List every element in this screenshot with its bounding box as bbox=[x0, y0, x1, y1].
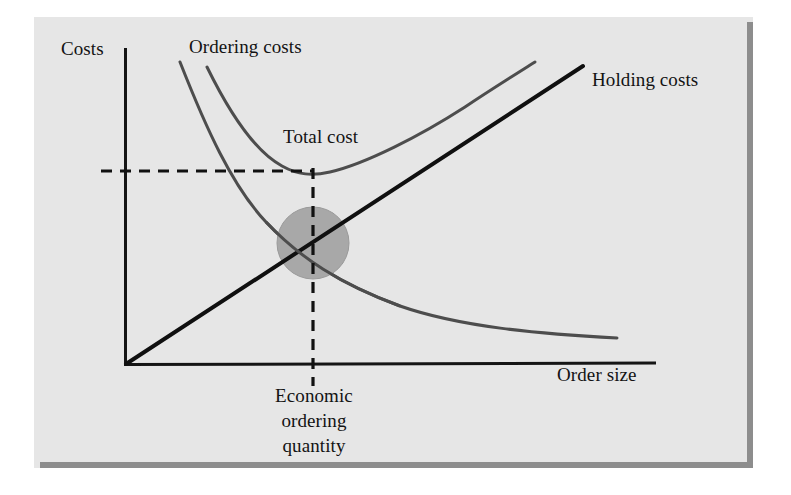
eoq-label: Economic ordering quantity bbox=[252, 383, 376, 458]
ordering-costs-label: Ordering costs bbox=[189, 36, 302, 58]
eoq-figure: Costs Ordering costs Total cost Holding … bbox=[0, 0, 791, 495]
total-cost-curve bbox=[207, 62, 535, 174]
eoq-label-line-1: Economic bbox=[252, 383, 376, 408]
y-axis-label: Costs bbox=[61, 38, 104, 60]
holding-costs-label: Holding costs bbox=[592, 69, 698, 91]
holding-costs-line bbox=[126, 66, 583, 364]
eoq-label-line-3: quantity bbox=[252, 433, 376, 458]
x-axis-label: Order size bbox=[557, 364, 637, 386]
total-cost-label: Total cost bbox=[283, 126, 358, 148]
eoq-label-line-2: ordering bbox=[252, 408, 376, 433]
ordering-costs-curve bbox=[180, 62, 617, 338]
